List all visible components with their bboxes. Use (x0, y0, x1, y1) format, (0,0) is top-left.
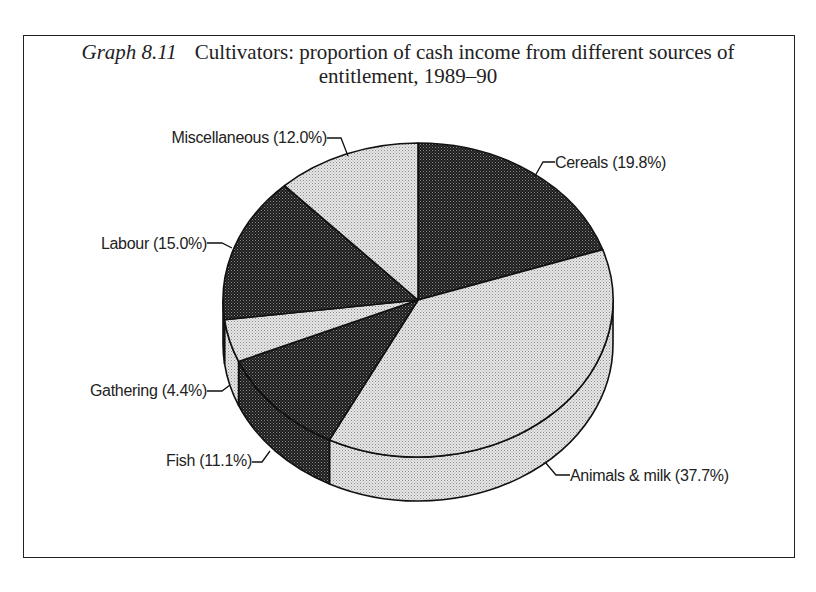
leader-line-miscellaneous (327, 138, 348, 156)
label-labour: Labour (15.0%) (101, 235, 207, 252)
pie-chart: Cereals (19.8%)Animals & milk (37.7%)Fis… (0, 0, 816, 592)
pie-top-slices (223, 143, 613, 457)
leader-line-cereals (535, 162, 555, 176)
label-gathering: Gathering (4.4%) (90, 382, 207, 399)
label-cereals: Cereals (19.8%) (555, 154, 666, 171)
leader-line-fish (252, 451, 270, 462)
leader-line-animals-milk (545, 462, 570, 475)
label-fish: Fish (11.1%) (166, 452, 252, 469)
label-animals-milk: Animals & milk (37.7%) (570, 467, 729, 484)
leader-line-gathering (207, 385, 230, 391)
label-miscellaneous: Miscellaneous (12.0%) (171, 129, 327, 146)
leader-line-labour (207, 243, 232, 248)
